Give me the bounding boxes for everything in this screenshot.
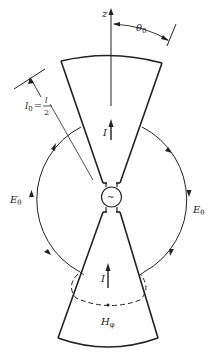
lower-current-arrow bbox=[106, 263, 111, 288]
z-axis bbox=[109, 8, 114, 106]
e-theta-field-line-left bbox=[29, 127, 81, 272]
h-phi-field-loop bbox=[71, 272, 146, 307]
l0-fraction-denominator: 2 bbox=[44, 108, 49, 117]
z-axis-label: z bbox=[101, 8, 108, 19]
biconical-antenna-diagram: z θ0 I ~ I bbox=[0, 0, 211, 356]
h-phi-label: Hφ bbox=[100, 316, 115, 329]
l0-fraction-numerator: l bbox=[45, 96, 48, 105]
e-theta-left-label: Eθ bbox=[9, 194, 22, 207]
e-theta-field-line-right bbox=[142, 127, 192, 272]
theta0-label: θ0 bbox=[136, 22, 147, 35]
source-symbol: ~ bbox=[107, 192, 115, 202]
lower-current-label: I bbox=[100, 273, 106, 284]
l0-label: l0= bbox=[25, 100, 42, 113]
upper-current-arrow bbox=[109, 119, 114, 140]
e-theta-right-label: Eθ bbox=[192, 204, 205, 217]
l0-dimension-line bbox=[14, 69, 93, 180]
upper-current-label: I bbox=[102, 127, 108, 138]
